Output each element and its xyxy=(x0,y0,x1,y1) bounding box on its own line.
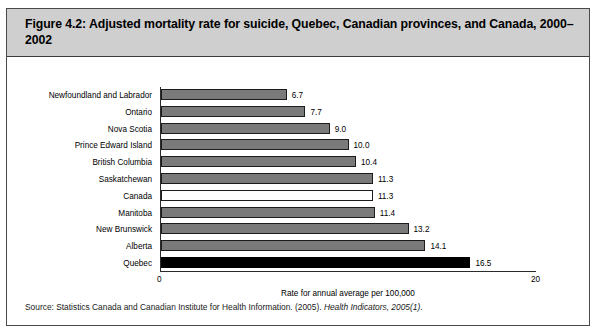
figure-title: Figure 4.2: Adjusted mortality rate for … xyxy=(25,16,575,48)
source-prefix: Source: Statistics Canada and Canadian I… xyxy=(25,302,324,312)
bar-gray xyxy=(161,106,305,117)
bar-value-label: 11.3 xyxy=(378,174,393,185)
bar-row: British Columbia10.4 xyxy=(7,155,589,172)
x-axis-title: Rate for annual average per 100,000 xyxy=(160,289,536,298)
category-label: Prince Edward Island xyxy=(7,140,152,151)
bar-row: Canada11.3 xyxy=(7,189,589,206)
source-note: Source: Statistics Canada and Canadian I… xyxy=(25,301,577,313)
bar-row: Alberta14.1 xyxy=(7,239,589,256)
bar-value-label: 10.0 xyxy=(354,140,370,151)
title-banner: Figure 4.2: Adjusted mortality rate for … xyxy=(7,9,589,57)
bar-row: Prince Edward Island10.0 xyxy=(7,138,589,155)
category-label: Manitoba xyxy=(7,208,152,219)
x-tick-label-max: 20 xyxy=(531,275,540,284)
category-label: Quebec xyxy=(7,258,152,269)
y-axis-line xyxy=(160,87,161,272)
bar-row: New Brunswick13.2 xyxy=(7,222,589,239)
bar-gray xyxy=(161,89,287,100)
bar-gray xyxy=(161,173,373,184)
bar-row: Ontario7.7 xyxy=(7,105,589,122)
category-label: Ontario xyxy=(7,107,152,118)
source-suffix: . xyxy=(420,302,422,312)
bar-black xyxy=(161,257,470,268)
bar-gray xyxy=(161,139,349,150)
bar-value-label: 11.3 xyxy=(378,191,393,202)
bar-row: Nova Scotia9.0 xyxy=(7,122,589,139)
x-axis-line xyxy=(160,271,536,272)
category-label: Newfoundland and Labrador xyxy=(7,90,152,101)
bar-value-label: 11.4 xyxy=(380,208,395,219)
bar-gray xyxy=(161,207,375,218)
bar-value-label: 14.1 xyxy=(430,241,446,252)
bar-white xyxy=(161,190,373,201)
bar-chart: Newfoundland and Labrador6.7Ontario7.7No… xyxy=(7,57,589,287)
category-label: Saskatchewan xyxy=(7,174,152,185)
category-label: Nova Scotia xyxy=(7,124,152,135)
bar-row: Newfoundland and Labrador6.7 xyxy=(7,88,589,105)
category-label: New Brunswick xyxy=(7,224,152,235)
bar-value-label: 10.4 xyxy=(361,157,377,168)
bar-value-label: 7.7 xyxy=(310,107,321,118)
category-label: British Columbia xyxy=(7,157,152,168)
figure-container: Figure 4.2: Adjusted mortality rate for … xyxy=(6,8,590,326)
bar-row: Manitoba11.4 xyxy=(7,206,589,223)
category-label: Canada xyxy=(7,191,152,202)
bar-gray xyxy=(161,240,425,251)
bar-gray xyxy=(161,223,409,234)
bar-value-label: 16.5 xyxy=(475,258,491,269)
x-tick-label-min: 0 xyxy=(157,275,162,284)
bar-value-label: 13.2 xyxy=(414,224,430,235)
bar-row: Saskatchewan11.3 xyxy=(7,172,589,189)
category-label: Alberta xyxy=(7,241,152,252)
bar-value-label: 9.0 xyxy=(335,124,346,135)
bar-value-label: 6.7 xyxy=(292,90,303,101)
bar-gray xyxy=(161,123,330,134)
bar-gray xyxy=(161,156,356,167)
source-publication: Health Indicators, 2005(1) xyxy=(324,302,420,312)
